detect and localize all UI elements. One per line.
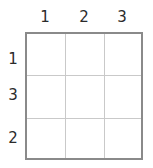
- row-label-1: 1: [3, 52, 23, 69]
- row-label-3: 2: [3, 131, 23, 148]
- grid-cell[interactable]: [65, 118, 104, 158]
- column-label-3: 3: [111, 10, 133, 27]
- grid-cell[interactable]: [65, 34, 104, 75]
- grid-box: [25, 32, 143, 160]
- grid-cell[interactable]: [27, 118, 65, 158]
- grid-cell[interactable]: [104, 34, 141, 75]
- column-label-2: 2: [73, 10, 95, 27]
- grid-cell[interactable]: [27, 75, 65, 118]
- row-label-2: 3: [3, 88, 23, 105]
- grid-figure: 1 2 3 1 3 2: [0, 0, 153, 168]
- grid-cell[interactable]: [27, 34, 65, 75]
- column-label-1: 1: [34, 10, 56, 27]
- grid-cell[interactable]: [104, 118, 141, 158]
- grid-cells: [27, 34, 141, 158]
- grid-cell[interactable]: [104, 75, 141, 118]
- grid-cell[interactable]: [65, 75, 104, 118]
